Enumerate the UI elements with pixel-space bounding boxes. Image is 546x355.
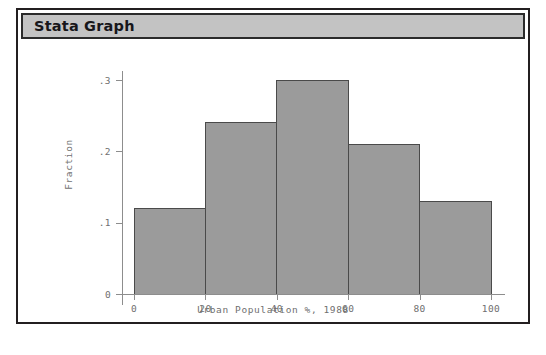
histogram-bar xyxy=(134,208,205,294)
histogram-bar xyxy=(277,80,348,294)
window-title-bar: Stata Graph xyxy=(21,13,525,39)
x-tick-label: 0 xyxy=(131,303,137,314)
x-tick-label: 80 xyxy=(413,303,425,314)
x-tick-label: 100 xyxy=(482,303,500,314)
x-axis-ticks: 020406080100 xyxy=(131,294,500,314)
histogram-bar xyxy=(420,201,491,294)
histogram-chart: 020406080100 0.1.2.3 xyxy=(18,41,528,322)
y-tick-label: .2 xyxy=(99,146,111,157)
histogram-bar xyxy=(205,123,276,294)
histogram-bars xyxy=(134,80,491,294)
plot-region: Fraction Urban Population %, 1988 020406… xyxy=(18,41,528,322)
y-tick-label: .3 xyxy=(99,75,111,86)
page-title: Stata Graph xyxy=(34,18,135,34)
y-tick-label: 0 xyxy=(105,289,111,300)
x-tick-label: 20 xyxy=(199,303,211,314)
y-tick-label: .1 xyxy=(99,217,111,228)
x-tick-label: 60 xyxy=(342,303,354,314)
y-axis-ticks: 0.1.2.3 xyxy=(99,75,122,300)
stata-graph-window: Stata Graph Fraction Urban Population %,… xyxy=(16,8,530,324)
histogram-bar xyxy=(348,144,419,294)
x-tick-label: 40 xyxy=(271,303,283,314)
